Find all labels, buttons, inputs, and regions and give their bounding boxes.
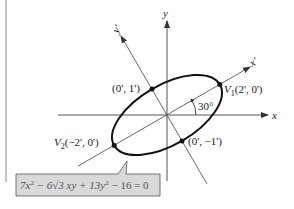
co-vertex-bottom-label: (0', −1') <box>188 135 222 148</box>
eq-part1: 7x <box>20 179 31 191</box>
co-vertex-top-label: (0', 1') <box>112 82 140 95</box>
x-prime-axis-label: x' <box>246 54 260 69</box>
angle-arc <box>192 101 196 116</box>
vertex-v1-label: V1(2', 0') <box>224 83 263 98</box>
co-vertex-bottom-point <box>180 139 185 144</box>
vertex-v2-label: V2(−2', 0') <box>54 136 99 151</box>
v2-coords: (−2', 0') <box>65 136 99 149</box>
angle-label: 30° <box>198 100 213 112</box>
y-axis-label: y <box>162 7 168 19</box>
eq-part3: − 16 = 0 <box>109 179 149 191</box>
y-prime-axis-label: y' <box>109 22 124 36</box>
co-vertex-top-point <box>150 87 155 92</box>
x-axis-label: x <box>271 109 277 121</box>
vertex-v1-point <box>217 82 222 87</box>
y-prime-axis <box>121 36 207 184</box>
equation-text: 7x2 − 6√3 xy + 13y2 − 16 = 0 <box>20 179 149 191</box>
eq-part2: − 6√3 xy + 13y <box>34 179 105 191</box>
rotated-ellipse-diagram: 30° x y x' y' V1(2', 0') V2(−2', 0') (0'… <box>0 0 294 209</box>
v1-coords: (2', 0') <box>235 83 263 96</box>
vertex-v2-point <box>112 143 117 148</box>
